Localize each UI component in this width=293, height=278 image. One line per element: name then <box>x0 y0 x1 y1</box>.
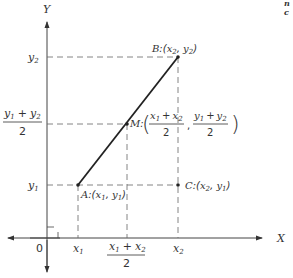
svg-text:2: 2 <box>19 125 26 138</box>
y1-label: y1 <box>27 179 39 193</box>
point-M <box>125 122 129 126</box>
point-B-label: B:(x2, y2) <box>151 43 197 56</box>
svg-text:y1+y2: y1+y2 <box>3 107 41 121</box>
x-axis-label: X <box>276 232 286 245</box>
svg-text:C:(x2, y1): C:(x2, y1) <box>185 180 230 193</box>
point-C-label: C:(x2, y1) <box>185 180 230 193</box>
svg-text:2: 2 <box>207 127 213 138</box>
svg-text:y1: y1 <box>27 179 39 193</box>
point-A <box>76 183 80 187</box>
corner-fragment-2: c <box>284 7 289 17</box>
svg-text:y1+y2: y1+y2 <box>193 110 227 123</box>
svg-text:y2: y2 <box>27 51 39 65</box>
svg-text:2: 2 <box>123 257 130 270</box>
y-axis-label: Y <box>43 3 52 16</box>
svg-text:x1+x2: x1+x2 <box>109 240 146 254</box>
xmid-label: x1+x2 2 <box>107 240 146 270</box>
point-M-label: M: ( x1+x2 2 , y1+y2 2 ) <box>129 110 240 138</box>
segment-AB <box>78 57 178 185</box>
svg-text:A:(x1, y1): A:(x1, y1) <box>80 189 126 202</box>
midpoint-diagram: Y X 0 y2 y1+y2 2 y1 x1 x1+x2 2 x2 B:(x2,… <box>0 0 293 278</box>
svg-text:B:(x2, y2): B:(x2, y2) <box>151 43 197 56</box>
svg-text:x2: x2 <box>173 242 184 256</box>
origin-label: 0 <box>36 242 43 255</box>
point-C <box>176 183 180 187</box>
svg-text:2: 2 <box>163 127 169 138</box>
svg-text:x1: x1 <box>73 242 84 256</box>
axes <box>8 22 262 272</box>
ymid-label: y1+y2 2 <box>3 107 42 138</box>
guide-lines <box>47 57 178 238</box>
x1-label: x1 <box>73 242 84 256</box>
svg-text:,: , <box>187 120 190 131</box>
svg-text:): ) <box>231 111 240 136</box>
point-A-label: A:(x1, y1) <box>80 189 126 202</box>
y2-label: y2 <box>27 51 39 65</box>
x2-label: x2 <box>173 242 184 256</box>
